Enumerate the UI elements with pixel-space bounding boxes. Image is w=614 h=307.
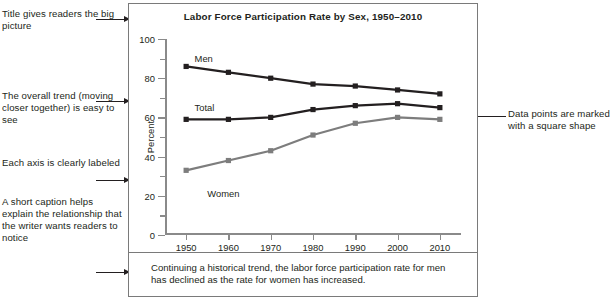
series-line-men [186, 66, 440, 93]
y-tick [158, 78, 165, 79]
data-point-marker [353, 121, 358, 126]
chart-title: Labor Force Participation Rate by Sex, 1… [129, 11, 477, 22]
y-axis-label: Percent [145, 121, 156, 153]
data-point-marker [184, 168, 189, 173]
data-point-marker [395, 87, 400, 92]
plot-area: Percent 020406080100 1950196019701980199… [165, 39, 461, 235]
chart-series-layer [165, 39, 461, 235]
data-point-marker [268, 115, 273, 120]
y-tick-label: 80 [145, 73, 155, 84]
leader-line-trend [96, 98, 130, 105]
y-tick [158, 39, 165, 40]
caption-divider [129, 252, 477, 253]
data-point-marker [310, 81, 315, 86]
data-point-marker [353, 83, 358, 88]
series-label-total: Total [195, 102, 215, 113]
annotation-trend: The overall trend (moving closer togethe… [2, 90, 122, 126]
data-point-marker [268, 148, 273, 153]
y-tick-label: 40 [145, 151, 155, 162]
y-tick-label: 100 [139, 34, 155, 45]
y-tick-label: 20 [145, 190, 155, 201]
y-tick [158, 117, 165, 118]
x-tick [355, 235, 356, 240]
annotation-caption: A short caption helps explain the relati… [2, 196, 122, 244]
figure-caption: Continuing a historical trend, the labor… [151, 262, 463, 287]
series-line-women [186, 117, 440, 170]
x-tick [313, 235, 314, 240]
x-tick [440, 235, 441, 240]
annotation-data-points: Data points are marked with a square sha… [508, 108, 614, 132]
y-tick [158, 157, 165, 158]
x-tick [398, 235, 399, 240]
data-point-marker [437, 105, 442, 110]
data-point-marker [226, 158, 231, 163]
y-tick-label: 0 [150, 230, 155, 241]
x-tick [228, 235, 229, 240]
leader-line-title [96, 16, 130, 23]
data-point-marker [310, 107, 315, 112]
data-point-marker [226, 117, 231, 122]
data-point-marker [395, 101, 400, 106]
data-point-marker [226, 70, 231, 75]
data-point-marker [310, 132, 315, 137]
series-label-men: Men [195, 53, 213, 64]
data-point-marker [437, 91, 442, 96]
data-point-marker [353, 103, 358, 108]
y-tick [158, 196, 165, 197]
figure-box: Labor Force Participation Rate by Sex, 1… [128, 3, 478, 297]
x-tick [271, 235, 272, 240]
data-point-marker [268, 76, 273, 81]
annotation-axes: Each axis is clearly labeled [2, 157, 122, 169]
y-tick-label: 60 [145, 112, 155, 123]
data-point-marker [184, 117, 189, 122]
data-point-marker [437, 117, 442, 122]
leader-line-axes [96, 177, 130, 184]
x-tick [186, 235, 187, 240]
data-point-marker [184, 64, 189, 69]
y-tick [158, 235, 165, 236]
leader-line-caption [96, 269, 130, 276]
data-point-marker [395, 115, 400, 120]
series-label-women: Women [207, 188, 239, 199]
